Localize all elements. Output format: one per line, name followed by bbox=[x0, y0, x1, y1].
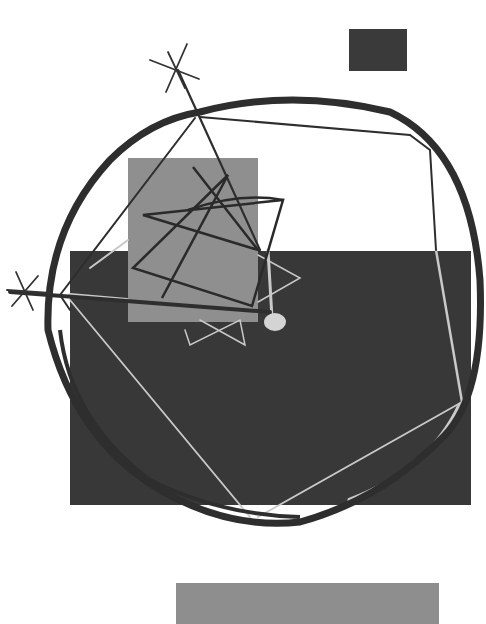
abstract-artwork bbox=[0, 0, 486, 624]
bottom-gray-rect bbox=[176, 583, 439, 624]
small-dark-rect bbox=[349, 29, 407, 71]
light-blob bbox=[264, 313, 286, 331]
